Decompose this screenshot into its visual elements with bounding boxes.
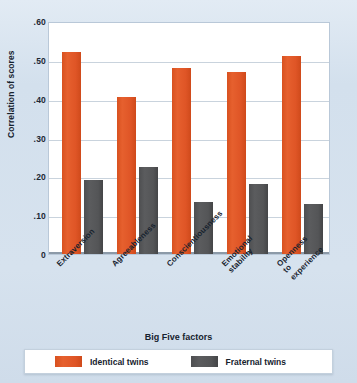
legend-entry-identical-twins: Identical twins [55, 356, 149, 367]
x-axis-title: Big Five factors [0, 332, 357, 342]
y-axis-tick-6: 0 [12, 250, 46, 260]
bar-identical-openness-to-experience [282, 56, 301, 254]
bar-identical-conscientiousness [172, 68, 191, 254]
legend-swatch-identical-icon [55, 356, 82, 367]
bar-identical-agreeableness [117, 97, 136, 254]
chart-legend: Identical twins Fraternal twins [24, 349, 333, 374]
bar-identical-extraversion [62, 52, 81, 254]
legend-label-fraternal-twins: Fraternal twins [226, 357, 286, 367]
chart-figure: Correlation of scores .60 .50 .40 .30 .2… [0, 0, 357, 383]
y-axis-tick-2: .40 [12, 95, 46, 105]
legend-label-identical-twins: Identical twins [90, 357, 149, 367]
y-axis-tick-1: .50 [12, 56, 46, 66]
y-axis-tick-5: .10 [12, 211, 46, 221]
bar-group-emotional-stability [227, 23, 268, 254]
y-axis-tick-4: .20 [12, 172, 46, 182]
plot-area [48, 22, 330, 255]
legend-entry-fraternal-twins: Fraternal twins [191, 356, 286, 367]
bar-group-openness-to-experience [282, 23, 323, 254]
bar-identical-emotional-stability [227, 72, 246, 255]
bar-group-agreeableness [117, 23, 158, 254]
y-axis-tick-3: .30 [12, 134, 46, 144]
y-axis-tick-0: .60 [12, 17, 46, 27]
bar-group-extraversion [62, 23, 103, 254]
legend-swatch-fraternal-icon [191, 356, 218, 367]
